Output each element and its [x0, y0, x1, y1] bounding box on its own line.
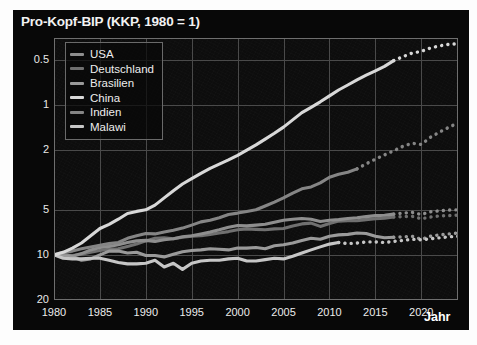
- y-tick-label: 2: [15, 143, 49, 155]
- legend-item-china[interactable]: China: [70, 91, 154, 106]
- legend-swatch-icon: [70, 125, 84, 128]
- legend-item-label: Brasilien: [90, 76, 134, 91]
- x-tick-label: 1990: [123, 306, 169, 318]
- series-line-indien: [357, 123, 458, 169]
- legend-swatch-icon: [70, 67, 84, 70]
- legend-item-deutschland[interactable]: Deutschland: [70, 62, 154, 77]
- series-line-indien: [54, 169, 357, 255]
- x-tick-label: 2000: [215, 306, 261, 318]
- legend-item-label: Indien: [90, 105, 121, 120]
- legend-item-brasilien[interactable]: Brasilien: [70, 76, 154, 91]
- series-line-usa: [394, 210, 458, 215]
- y-tick-label: 0.5: [15, 53, 49, 65]
- chart-title: Pro-Kopf-BIP (KKP, 1980 = 1): [21, 14, 200, 29]
- y-tick-label: 1: [15, 98, 49, 110]
- y-tick-label: 10: [15, 248, 49, 260]
- y-tick-label: 20: [15, 293, 49, 305]
- legend-item-label: USA: [90, 47, 114, 62]
- legend-item-indien[interactable]: Indien: [70, 105, 154, 120]
- x-tick-label: 2005: [261, 306, 307, 318]
- legend-item-label: Deutschland: [90, 62, 154, 77]
- legend-item-malawi[interactable]: Malawi: [70, 120, 154, 135]
- legend-swatch-icon: [70, 111, 84, 114]
- chart-frame: Pro-Kopf-BIP (KKP, 1980 = 1) 20105210.5 …: [13, 10, 469, 330]
- x-tick-label: 2015: [352, 306, 398, 318]
- legend: USADeutschlandBrasilienChinaIndienMalawi: [65, 42, 163, 140]
- x-axis-label: Jahr: [424, 310, 450, 324]
- x-tick-label: 1995: [169, 306, 215, 318]
- x-tick-label: 2010: [306, 306, 352, 318]
- x-tick-label: 1985: [77, 306, 123, 318]
- legend-item-label: China: [90, 91, 120, 106]
- chart-screenshot: Pro-Kopf-BIP (KKP, 1980 = 1) 20105210.5 …: [0, 0, 477, 345]
- series-line-malawi: [339, 236, 458, 243]
- legend-swatch-icon: [70, 82, 84, 85]
- x-tick-label: 1980: [31, 306, 77, 318]
- series-line-deutschland: [394, 215, 458, 219]
- legend-swatch-icon: [70, 96, 84, 99]
- legend-item-label: Malawi: [90, 120, 126, 135]
- legend-item-usa[interactable]: USA: [70, 47, 154, 62]
- y-tick-label: 5: [15, 203, 49, 215]
- legend-swatch-icon: [70, 53, 84, 56]
- series-line-china: [394, 44, 458, 61]
